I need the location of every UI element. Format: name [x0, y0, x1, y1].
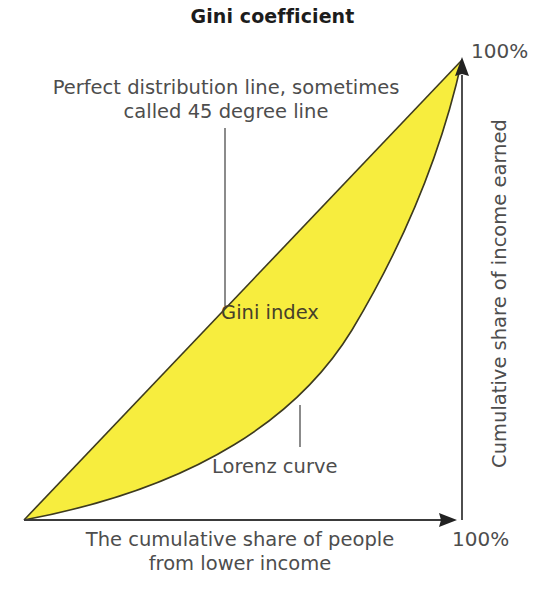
x-axis-label-line-1: The cumulative share of people — [86, 528, 394, 551]
annotation-lorenz-curve: Lorenz curve — [212, 455, 392, 479]
x-axis-arrowhead — [439, 513, 457, 527]
annotation-perfect-distribution-line: Perfect distribution line, sometimescall… — [40, 76, 412, 124]
y-axis-max-tick-label: 100% — [471, 39, 528, 63]
x-axis-max-tick-label: 100% — [452, 527, 509, 551]
gini-coefficient-figure: Gini coefficient Perfect distribution li… — [0, 0, 545, 591]
x-axis-label: The cumulative share of peoplefrom lower… — [30, 528, 450, 576]
y-axis-label: Cumulative share of income earned — [488, 148, 512, 468]
perfect-distribution-line — [24, 60, 462, 520]
annotation-perfect-line-2: called 45 degree line — [124, 100, 329, 123]
annotation-perfect-line-1: Perfect distribution line, sometimes — [53, 76, 400, 99]
annotation-gini-index: Gini index — [190, 301, 350, 325]
x-axis-label-line-2: from lower income — [149, 552, 332, 575]
